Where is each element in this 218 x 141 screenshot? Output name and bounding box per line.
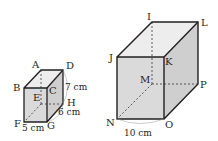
vertex-label-d: D: [66, 60, 74, 71]
vertex-label-o: O: [165, 119, 173, 130]
vertex-label-n: N: [106, 117, 115, 128]
vertex-label-b: B: [13, 82, 20, 93]
width-label: 5 cm: [22, 123, 45, 133]
vertex-label-l: L: [201, 17, 208, 28]
large-prism: I J K L M N O P 10 cm: [106, 11, 208, 138]
large-front-face: [117, 57, 164, 119]
vertex-label-j: J: [108, 52, 113, 63]
vertex-label-m: M: [140, 74, 150, 85]
vertex-label-k: K: [165, 56, 173, 67]
vertex-label-a: A: [31, 59, 40, 70]
height-label: 7 cm: [65, 82, 88, 92]
width-label: 10 cm: [124, 128, 152, 138]
diagram: A B C D E F G H 7 cm 6 cm 5 cm I J K L M…: [0, 0, 218, 141]
vertex-label-p: P: [200, 79, 207, 90]
vertex-label-f: F: [14, 118, 21, 129]
vertex-label-e: E: [33, 92, 40, 103]
vertex-label-g: G: [47, 120, 55, 131]
depth-label: 6 cm: [58, 107, 81, 117]
vertex-label-i: I: [147, 11, 151, 22]
small-prism: A B C D E F G H 7 cm 6 cm 5 cm: [13, 59, 88, 133]
vertex-label-c: C: [49, 85, 57, 96]
